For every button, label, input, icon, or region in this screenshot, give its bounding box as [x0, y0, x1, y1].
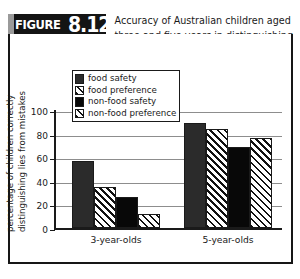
y-axis-title-line-1: percentage of children correctly — [5, 95, 15, 232]
bar-5-year-olds-non-food-safety — [228, 147, 250, 228]
bar-group-3-year-olds — [72, 110, 160, 228]
bar-3-year-olds-non-food-preference — [138, 214, 160, 228]
y-axis-tick-mark — [50, 183, 55, 184]
y-axis-tick-mark — [50, 206, 55, 207]
legend-item-label: food preference — [88, 85, 157, 96]
y-axis-tick-label: 0 — [42, 225, 48, 235]
bar-3-year-olds-food-safety — [72, 161, 94, 228]
bar-5-year-olds-food-safety — [184, 123, 206, 228]
y-axis-line — [54, 110, 56, 230]
figure-header: FIGURE 8.12 Accuracy of Australian child… — [8, 14, 293, 34]
bar-3-year-olds-food-preference — [94, 187, 116, 228]
legend-item-label: food safety — [88, 73, 137, 84]
legend-item-food-safety: food safety — [75, 73, 175, 85]
figure-number: 8.12 — [68, 16, 105, 35]
bar-5-year-olds-non-food-preference — [250, 138, 272, 228]
chart-legend: food safetyfood preferencenon-food safet… — [72, 70, 180, 122]
y-axis-tick-label: 100 — [31, 107, 48, 117]
legend-item-non-food-safety: non-food safety — [75, 96, 175, 108]
plot-area: 0204060801003-year-olds5-year-olds — [54, 110, 282, 230]
bar-group-5-year-olds — [184, 110, 272, 228]
y-axis-title: percentage of children correctly disting… — [14, 108, 40, 232]
legend-swatch-icon — [75, 86, 84, 96]
y-axis-tick-label: 40 — [37, 178, 48, 188]
y-axis-tick-mark — [50, 230, 55, 231]
legend-item-food-preference: food preference — [75, 85, 175, 97]
banner-accent-bar — [8, 14, 14, 34]
legend-swatch-icon — [75, 109, 84, 119]
x-axis-label-5-year-olds: 5-year-olds — [202, 234, 253, 245]
legend-swatch-icon — [75, 74, 84, 84]
figure-title: Accuracy of Australian children aged thr… — [106, 14, 293, 34]
x-axis-label-3-year-olds: 3-year-olds — [90, 234, 141, 245]
legend-item-label: non-food preference — [88, 108, 176, 119]
y-axis-tick-mark — [50, 112, 55, 113]
y-axis-tick-mark — [50, 136, 55, 137]
figure-container: FIGURE 8.12 Accuracy of Australian child… — [0, 0, 300, 279]
figure-number-banner: FIGURE 8.12 — [8, 14, 106, 34]
figure-title-line-1: Accuracy of Australian children aged — [115, 14, 293, 29]
y-axis-tick-mark — [50, 159, 55, 160]
y-axis-tick-label: 60 — [37, 154, 48, 164]
y-axis-tick-label: 80 — [37, 131, 48, 141]
y-axis-tick-label: 20 — [37, 201, 48, 211]
bar-3-year-olds-non-food-safety — [116, 197, 138, 228]
legend-swatch-icon — [75, 97, 84, 107]
figure-label-word: FIGURE — [15, 17, 60, 32]
bar-5-year-olds-food-preference — [206, 129, 228, 228]
x-axis-line — [54, 228, 282, 230]
legend-item-label: non-food safety — [88, 96, 156, 107]
y-axis-title-line-2: distinguishing lies from mistakes — [17, 91, 27, 232]
legend-item-non-food-preference: non-food preference — [75, 108, 175, 120]
